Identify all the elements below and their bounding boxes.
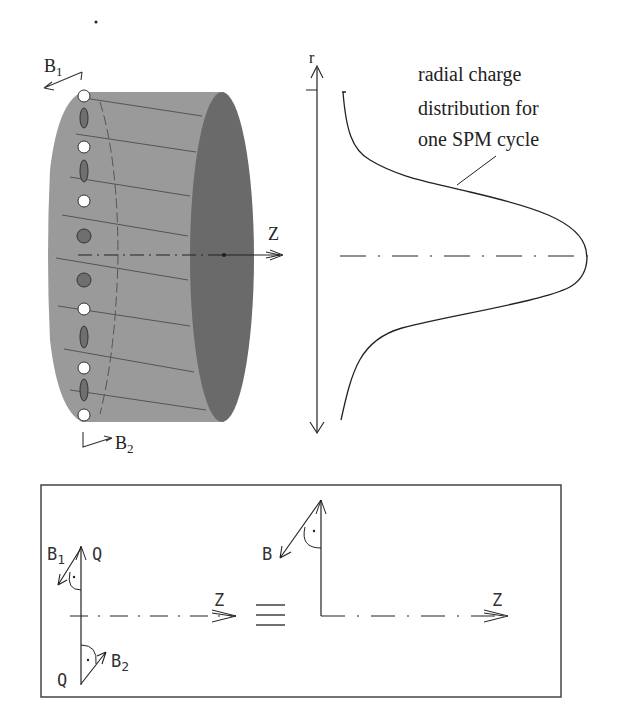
elongated-dot xyxy=(80,326,88,348)
hollow-dot xyxy=(78,409,90,421)
b1-label-lower: B1 xyxy=(47,544,65,567)
b2-label: B2 xyxy=(115,433,134,456)
cylinder-end-face xyxy=(190,92,254,422)
elongated-dot xyxy=(80,108,88,128)
q-bottom-label: Q xyxy=(57,670,67,690)
hollow-dot xyxy=(78,362,90,374)
annotation-text: radial charge distribution for one SPM c… xyxy=(418,63,544,151)
equivalence-symbol xyxy=(256,605,285,625)
figure-canvas: Z B1 B2 r radial charge distribution for… xyxy=(0,0,619,728)
left-z-label: Z xyxy=(214,590,224,610)
b1-label: B1 xyxy=(44,56,63,79)
elongated-dot xyxy=(80,160,88,182)
filled-dot xyxy=(77,229,91,243)
hollow-dot xyxy=(78,303,90,315)
b-label: B xyxy=(262,544,272,564)
right-angle-mark-bottom xyxy=(81,645,96,664)
b2-arrow-icon xyxy=(83,432,112,447)
right-angle-mark xyxy=(304,527,321,548)
hollow-dot xyxy=(78,195,90,207)
annotation-leader xyxy=(457,156,496,185)
hollow-dot xyxy=(78,90,90,102)
hollow-dot xyxy=(78,141,90,153)
cylinder-diagram: Z B1 B2 xyxy=(44,56,283,456)
b2-vector-icon xyxy=(81,652,106,684)
equivalence-panel: B1 Q Z B2 Q B Z xyxy=(41,485,561,697)
b-vector-icon xyxy=(280,500,321,558)
q-top-label: Q xyxy=(92,544,102,564)
filled-dot xyxy=(77,273,91,287)
radial-distribution-plot: r radial charge distribution for one SPM… xyxy=(306,49,588,433)
right-angle-mark-top xyxy=(69,572,81,590)
elongated-dot xyxy=(80,379,88,401)
b2-label-lower: B2 xyxy=(111,651,129,674)
stray-dot xyxy=(95,21,98,24)
right-z-label: Z xyxy=(492,590,502,610)
z-axis-label: Z xyxy=(268,224,279,244)
r-axis-label: r xyxy=(309,49,315,66)
